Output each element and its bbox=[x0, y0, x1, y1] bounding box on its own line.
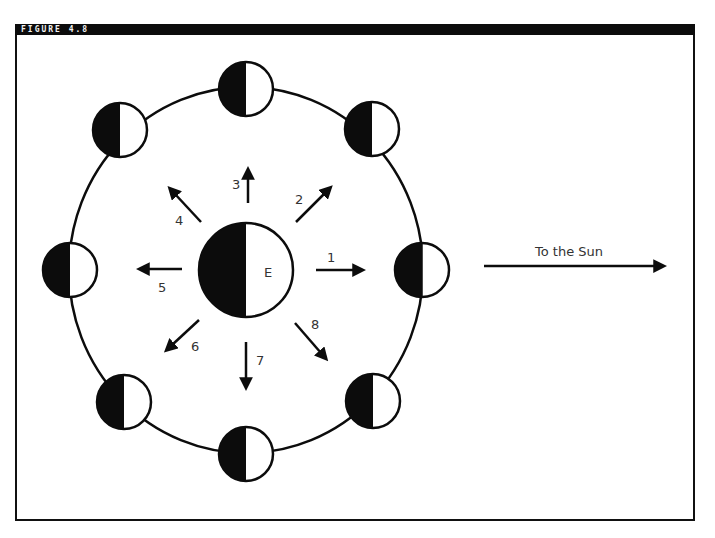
moon-2-icon bbox=[345, 102, 399, 156]
earth-label: E bbox=[264, 265, 272, 280]
moon-4-icon bbox=[93, 103, 147, 157]
arrow-5-label: 5 bbox=[158, 280, 166, 295]
arrow-8-label: 8 bbox=[311, 317, 319, 332]
moon-1-icon bbox=[395, 243, 449, 297]
moon-5-icon bbox=[43, 243, 97, 297]
sun-direction-label: To the Sun bbox=[534, 244, 603, 259]
arrow-2-label: 2 bbox=[295, 192, 303, 207]
moon-6-icon bbox=[97, 375, 151, 429]
arrow-3-label: 3 bbox=[232, 177, 240, 192]
arrow-6-label: 6 bbox=[191, 339, 199, 354]
moon-phases-diagram: E 1 2 3 4 5 6 7 8 To the Sun bbox=[0, 0, 715, 538]
moon-3-icon bbox=[219, 62, 273, 116]
arrow-7-label: 7 bbox=[256, 353, 264, 368]
arrow-4-label: 4 bbox=[175, 213, 183, 228]
arrow-1-label: 1 bbox=[327, 250, 335, 265]
earth-icon bbox=[199, 223, 293, 317]
moon-7-icon bbox=[219, 427, 273, 481]
moon-8-icon bbox=[346, 374, 400, 428]
